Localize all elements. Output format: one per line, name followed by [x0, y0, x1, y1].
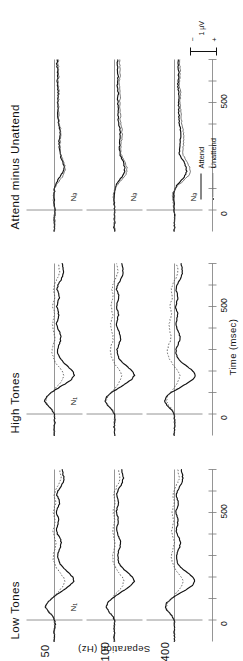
waveform-panel: N₁: [26, 249, 92, 435]
amplitude-scale-bar: − + 1 µV: [186, 15, 230, 61]
column-title-high-tones: High Tones: [8, 372, 20, 433]
erp-figure: Low Tones High Tones Attend minus Unatte…: [0, 0, 243, 661]
waveform-panel: [146, 455, 212, 641]
waveform-panel: N₁: [26, 455, 92, 641]
component-label-nd: Nₔ: [68, 192, 77, 201]
waveform-trace-attend: [44, 263, 74, 435]
waveform-trace-attend: [105, 263, 135, 435]
time-axis-tick-label: 500: [218, 298, 228, 312]
waveform-trace-attend: [164, 263, 195, 435]
legend-label-attend: Attend: [196, 146, 205, 168]
column-title-low-tones: Low Tones: [8, 581, 20, 639]
time-axis: 0500: [208, 249, 222, 435]
waveform-panel: [86, 249, 152, 435]
legend: Attend Unattend: [196, 138, 217, 199]
waveform-plot: [86, 45, 152, 231]
waveform-panel: Nₔ: [26, 45, 92, 231]
waveform-trace-attend: [165, 469, 194, 641]
time-axis-tick-label: 500: [218, 94, 228, 108]
waveform-panel: [86, 455, 152, 641]
time-axis-tick-label: 0: [218, 415, 228, 420]
waveform-plot: [26, 45, 92, 231]
waveform-panel: [146, 249, 212, 435]
time-axis-tick-label: 500: [218, 504, 228, 518]
y-axis-title-separation: Separation (Hz): [77, 643, 150, 654]
column-title-attend-minus-unattend: Attend minus Unattend: [8, 104, 20, 229]
scale-bar-label: 1 µV: [197, 20, 204, 35]
waveform-plot: [86, 249, 152, 435]
legend-swatch-unattend-dotted-line: [212, 173, 213, 199]
legend-item-attend: Attend: [196, 138, 205, 199]
waveform-plot: [146, 455, 212, 641]
component-label-n1: N₁: [68, 396, 77, 404]
figure-rotation-wrapper: Low Tones High Tones Attend minus Unatte…: [0, 0, 243, 661]
row-label-separation-50: 50: [38, 644, 50, 657]
waveform-trace-attend: [45, 469, 74, 641]
waveform-trace-unattend: [166, 263, 180, 435]
time-axis-tick-label: 0: [218, 621, 228, 626]
waveform-plot: [146, 249, 212, 435]
time-axis-tick-label: 0: [218, 211, 228, 216]
waveform-plot: [26, 249, 92, 435]
waveform-trace-unattend: [105, 263, 121, 435]
waveform-trace-unattend: [46, 469, 65, 641]
waveform-plot: [86, 455, 152, 641]
row-label-separation-400: 400: [158, 641, 170, 661]
x-axis-title-time: Time (msec): [226, 318, 237, 375]
waveform-trace-attend: [106, 469, 134, 641]
scale-bar-minus-sign: −: [188, 37, 195, 41]
legend-label-unattend: Unattend: [208, 138, 217, 168]
legend-swatch-attend-solid-line: [200, 173, 201, 199]
scale-bar-plus-sign: +: [210, 37, 217, 41]
legend-item-unattend: Unattend: [208, 138, 217, 199]
time-axis: 0500: [208, 455, 222, 641]
waveform-panel: Nₔ: [86, 45, 152, 231]
waveform-plot: [26, 455, 92, 641]
component-label-nd: Nₔ: [128, 192, 137, 201]
component-label-n1: N₁: [68, 602, 77, 610]
